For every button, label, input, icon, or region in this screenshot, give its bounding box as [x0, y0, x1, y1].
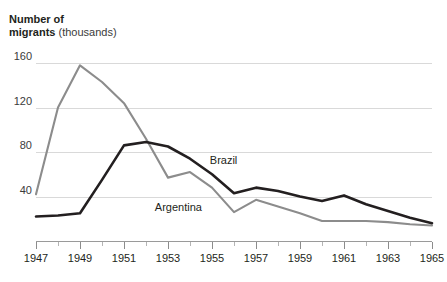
x-tick-major: [80, 242, 81, 249]
series-line-argentina: [36, 65, 432, 225]
x-tick-label: 1963: [376, 253, 400, 264]
x-tick-minor: [190, 242, 191, 246]
x-tick-label: 1965: [420, 253, 444, 264]
chart-title-line1: Number of: [9, 13, 64, 25]
x-tick-major: [212, 242, 213, 249]
series-label-argentina: Argentina: [155, 202, 202, 213]
x-tick-major: [300, 242, 301, 249]
x-tick-label: 1947: [24, 253, 48, 264]
x-tick-label: 1957: [244, 253, 268, 264]
x-tick-major: [344, 242, 345, 249]
x-tick-major: [168, 242, 169, 249]
x-tick-label: 1949: [68, 253, 92, 264]
x-tick-major: [256, 242, 257, 249]
x-tick-major: [388, 242, 389, 249]
series-label-brazil: Brazil: [210, 155, 238, 166]
x-tick-minor: [58, 242, 59, 246]
chart-title: Number of migrants (thousands): [9, 13, 117, 39]
plot-area: [36, 52, 432, 241]
x-tick-minor: [146, 242, 147, 246]
x-tick-minor: [102, 242, 103, 246]
y-tick-label: 80: [20, 140, 32, 151]
y-tick-label: 40: [20, 185, 32, 196]
y-tick-label: 160: [14, 51, 32, 62]
x-tick-major: [36, 242, 37, 249]
chart-title-unit: (thousands): [59, 26, 117, 38]
x-tick-major: [432, 242, 433, 249]
x-tick-major: [124, 242, 125, 249]
chart-title-line2: migrants: [9, 26, 55, 38]
x-tick-label: 1951: [112, 253, 136, 264]
x-tick-minor: [366, 242, 367, 246]
migration-line-chart: Number of migrants (thousands) 408012016…: [0, 0, 447, 282]
x-tick-label: 1955: [200, 253, 224, 264]
x-tick-label: 1961: [332, 253, 356, 264]
x-tick-minor: [322, 242, 323, 246]
x-tick-minor: [278, 242, 279, 246]
x-tick-label: 1959: [288, 253, 312, 264]
y-tick-label: 120: [14, 96, 32, 107]
x-tick-label: 1953: [156, 253, 180, 264]
x-tick-minor: [410, 242, 411, 246]
x-tick-minor: [234, 242, 235, 246]
